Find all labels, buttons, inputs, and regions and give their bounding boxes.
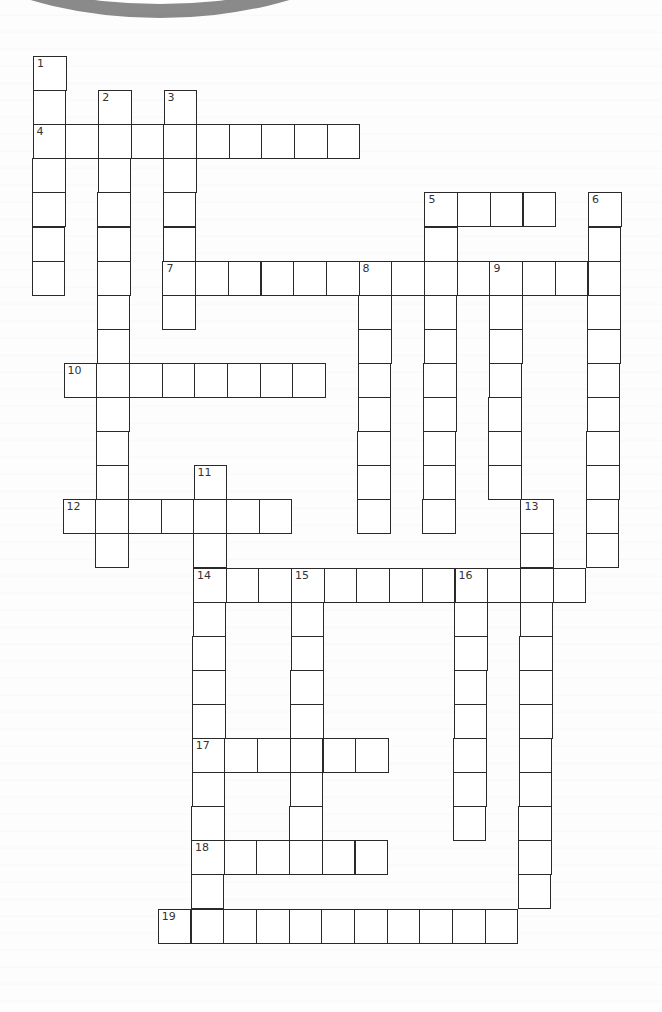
crossword-cell[interactable] <box>289 909 323 944</box>
crossword-cell[interactable]: 16 <box>455 568 489 603</box>
crossword-cell[interactable] <box>485 909 519 944</box>
crossword-cell[interactable] <box>258 568 292 603</box>
crossword-cell[interactable] <box>32 158 66 193</box>
crossword-cell[interactable] <box>98 158 132 193</box>
crossword-cell[interactable] <box>326 261 360 296</box>
crossword-cell[interactable] <box>423 397 457 432</box>
crossword-cell[interactable] <box>454 704 488 739</box>
crossword-cell[interactable] <box>290 772 324 807</box>
crossword-cell[interactable] <box>520 602 554 637</box>
crossword-cell[interactable] <box>257 738 291 773</box>
crossword-cell[interactable]: 5 <box>424 192 458 227</box>
crossword-cell[interactable] <box>358 295 392 330</box>
crossword-cell[interactable] <box>453 738 487 773</box>
crossword-cell[interactable]: 10 <box>64 363 98 398</box>
crossword-cell[interactable] <box>357 499 391 534</box>
crossword-cell[interactable] <box>97 329 131 364</box>
crossword-cell[interactable] <box>586 431 620 466</box>
crossword-cell[interactable] <box>226 499 260 534</box>
crossword-cell[interactable] <box>424 295 458 330</box>
crossword-cell[interactable] <box>587 295 621 330</box>
crossword-cell[interactable] <box>97 192 131 227</box>
crossword-cell[interactable] <box>553 568 587 603</box>
crossword-cell[interactable] <box>256 840 290 875</box>
crossword-cell[interactable] <box>191 806 225 841</box>
crossword-cell[interactable] <box>490 192 524 227</box>
crossword-cell[interactable] <box>32 227 66 262</box>
crossword-cell[interactable] <box>489 329 523 364</box>
crossword-cell[interactable]: 11 <box>194 465 228 500</box>
crossword-cell[interactable] <box>192 670 226 705</box>
crossword-cell[interactable]: 15 <box>291 568 325 603</box>
crossword-cell[interactable] <box>96 431 130 466</box>
crossword-cell[interactable] <box>587 363 621 398</box>
crossword-cell[interactable] <box>162 295 196 330</box>
crossword-cell[interactable] <box>586 499 620 534</box>
crossword-cell[interactable] <box>519 772 553 807</box>
crossword-cell[interactable] <box>195 261 229 296</box>
crossword-cell[interactable] <box>65 124 99 159</box>
crossword-cell[interactable] <box>519 670 553 705</box>
crossword-cell[interactable] <box>518 874 552 909</box>
crossword-cell[interactable] <box>523 192 557 227</box>
crossword-cell[interactable] <box>260 363 294 398</box>
crossword-cell[interactable] <box>489 295 523 330</box>
crossword-cell[interactable]: 2 <box>98 90 132 125</box>
crossword-cell[interactable] <box>488 465 522 500</box>
crossword-cell[interactable] <box>588 261 622 296</box>
crossword-cell[interactable]: 13 <box>520 499 554 534</box>
crossword-cell[interactable] <box>387 909 421 944</box>
crossword-cell[interactable] <box>193 533 227 568</box>
crossword-cell[interactable] <box>294 124 328 159</box>
crossword-cell[interactable] <box>519 636 553 671</box>
crossword-cell[interactable] <box>424 261 458 296</box>
crossword-cell[interactable] <box>321 909 355 944</box>
crossword-cell[interactable] <box>290 670 324 705</box>
crossword-cell[interactable] <box>519 704 553 739</box>
crossword-cell[interactable] <box>163 158 197 193</box>
crossword-cell[interactable] <box>323 738 357 773</box>
crossword-cell[interactable] <box>224 840 258 875</box>
crossword-cell[interactable] <box>424 329 458 364</box>
crossword-cell[interactable] <box>98 124 132 159</box>
crossword-cell[interactable]: 1 <box>33 56 67 91</box>
crossword-cell[interactable]: 18 <box>191 840 225 875</box>
crossword-cell[interactable] <box>457 192 491 227</box>
crossword-cell[interactable] <box>32 192 66 227</box>
crossword-cell[interactable] <box>587 397 621 432</box>
crossword-cell[interactable]: 17 <box>192 738 226 773</box>
crossword-cell[interactable] <box>96 363 130 398</box>
crossword-cell[interactable] <box>192 704 226 739</box>
crossword-cell[interactable] <box>97 227 131 262</box>
crossword-cell[interactable] <box>357 465 391 500</box>
crossword-cell[interactable] <box>522 261 556 296</box>
crossword-cell[interactable] <box>322 840 356 875</box>
crossword-cell[interactable] <box>163 227 197 262</box>
crossword-cell[interactable] <box>422 499 456 534</box>
crossword-cell[interactable] <box>196 124 230 159</box>
crossword-cell[interactable] <box>487 568 521 603</box>
crossword-cell[interactable] <box>291 636 325 671</box>
crossword-cell[interactable] <box>519 738 553 773</box>
crossword-cell[interactable] <box>424 227 458 262</box>
crossword-cell[interactable] <box>128 499 162 534</box>
crossword-cell[interactable] <box>358 397 392 432</box>
crossword-cell[interactable] <box>357 431 391 466</box>
crossword-cell[interactable] <box>226 568 260 603</box>
crossword-cell[interactable] <box>223 909 257 944</box>
crossword-cell[interactable]: 19 <box>158 909 192 944</box>
crossword-cell[interactable] <box>259 499 293 534</box>
crossword-cell[interactable] <box>129 363 163 398</box>
crossword-cell[interactable] <box>452 909 486 944</box>
crossword-cell[interactable] <box>327 124 361 159</box>
crossword-cell[interactable] <box>423 431 457 466</box>
crossword-cell[interactable] <box>131 124 165 159</box>
crossword-cell[interactable] <box>453 772 487 807</box>
crossword-cell[interactable] <box>355 738 389 773</box>
crossword-cell[interactable] <box>33 90 67 125</box>
crossword-cell[interactable] <box>324 568 358 603</box>
crossword-cell[interactable] <box>193 602 227 637</box>
crossword-cell[interactable] <box>95 533 129 568</box>
crossword-cell[interactable] <box>419 909 453 944</box>
crossword-cell[interactable] <box>95 499 129 534</box>
